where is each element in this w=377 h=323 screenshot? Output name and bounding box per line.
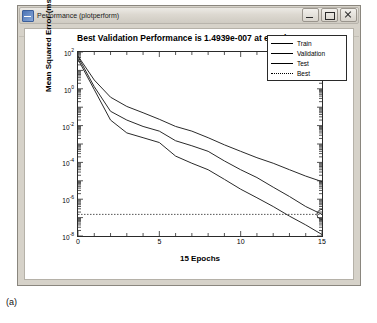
legend-swatch-best: [271, 73, 293, 74]
legend-label-test: Test: [297, 60, 309, 67]
close-button[interactable]: [340, 8, 357, 22]
y-tick-label: 10-2: [62, 121, 74, 130]
legend-label-validation: Validation: [297, 50, 325, 57]
legend-item-test: Test: [271, 58, 343, 68]
matlab-figure-icon: [22, 10, 34, 22]
figure-window[interactable]: Performance (plotperform) Best Validatio…: [17, 5, 361, 286]
legend-swatch-train: [271, 43, 293, 44]
legend-swatch-validation: [271, 53, 293, 54]
x-tick-label: 15: [318, 238, 326, 245]
y-tick-label: 10-8: [62, 231, 74, 240]
window-titlebar[interactable]: Performance (plotperform): [19, 7, 359, 24]
legend-label-train: Train: [297, 40, 312, 47]
figure-caption: (a): [6, 297, 17, 307]
y-axis-label: Mean Squared Error (mse): [44, 0, 53, 102]
x-axis-label: 15 Epochs: [78, 254, 322, 263]
x-tick-label: 0: [76, 238, 80, 245]
maximize-button[interactable]: [321, 8, 338, 22]
y-tick-label: 100: [64, 84, 74, 93]
minimize-button[interactable]: [302, 8, 319, 22]
legend-swatch-test: [271, 63, 293, 64]
legend-item-train: Train: [271, 38, 343, 48]
y-tick-label: 10-6: [62, 195, 74, 204]
y-tick-label: 10-4: [62, 158, 74, 167]
chart-legend[interactable]: Train Validation Test Best: [267, 35, 347, 81]
x-tick-label: 5: [157, 238, 161, 245]
legend-item-best: Best: [271, 68, 343, 78]
window-controls: [302, 8, 357, 22]
figure-canvas: Best Validation Performance is 1.4939e-0…: [24, 28, 354, 280]
x-tick-label: 10: [237, 238, 245, 245]
legend-item-validation: Validation: [271, 48, 343, 58]
y-tick-label: 102: [64, 47, 74, 56]
legend-label-best: Best: [297, 70, 310, 77]
